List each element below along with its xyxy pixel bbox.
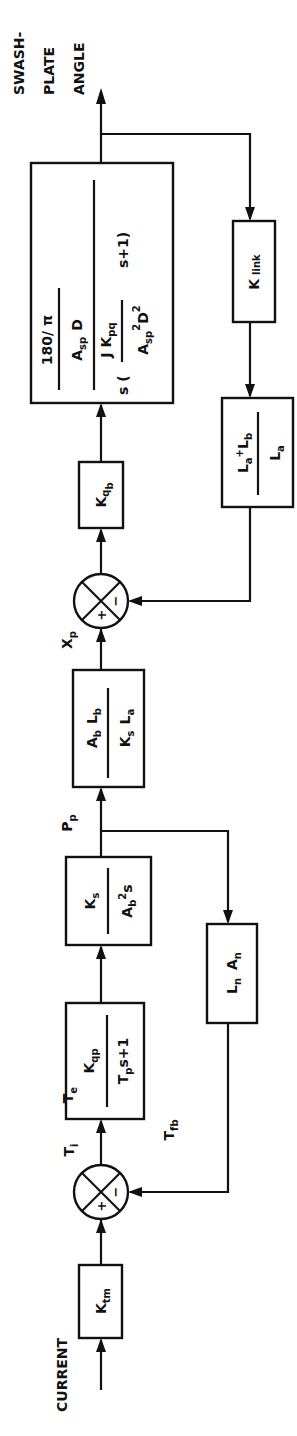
pressure-den: A: [119, 907, 135, 918]
kqb-sub: q: [100, 490, 111, 497]
valve-den: T: [115, 1074, 131, 1084]
block-lever: La+Lb La: [222, 398, 293, 507]
lever-lb: L: [235, 440, 251, 449]
valve-den-rest: s+1: [115, 1038, 131, 1068]
signal-xp: Xp: [59, 631, 78, 649]
plant-asp: A: [69, 350, 85, 361]
output-label-line3: ANGLE: [71, 42, 87, 95]
kqb-subsub: b: [104, 482, 115, 489]
lnan-a-sub: n: [232, 952, 243, 959]
plant-den-a: A: [135, 344, 151, 355]
signal-ti: Ti: [61, 1144, 80, 1157]
plant-asp-sub: sp: [77, 337, 88, 350]
lnan-a: A: [224, 959, 240, 970]
spool-den-l-sub: a: [125, 709, 136, 716]
block-valve: Kqp Tps+1: [66, 1003, 144, 1119]
plant-den-d: D: [135, 312, 151, 324]
summing-junction-2: + −: [74, 574, 128, 628]
spool-den-l: L: [117, 715, 133, 724]
block-spool: AbLb KsLa: [73, 670, 144, 787]
input-label: CURRENT: [54, 1338, 70, 1412]
signal-pp: Pp: [59, 814, 78, 831]
pressure-den-rest: s: [119, 884, 135, 892]
plant-den-prefix: s (: [115, 375, 131, 395]
block-kqb: Kqb: [79, 462, 123, 528]
block-klink: Klink: [233, 221, 275, 322]
block-plant: 180/ π AspD J Kpq s ( Asp2D2 s+1): [31, 163, 173, 403]
spool-den-k-sub: s: [125, 730, 136, 736]
plant-outer-top: 180/ π: [39, 315, 55, 365]
minus-sign: −: [108, 596, 123, 607]
output-label-line2: PLATE: [41, 47, 57, 95]
block-diagram: + − + − Ktm Kqp Tps+1 Ks Ab2s: [0, 0, 297, 1436]
lever-la-sub: a: [243, 457, 254, 464]
plus-sign: +: [94, 1201, 109, 1212]
valve-num-sub: qp: [89, 1048, 100, 1062]
valve-den-sub: p: [123, 1068, 134, 1075]
lnan-l: L: [224, 985, 240, 994]
plant-jk: J K: [98, 336, 114, 359]
block-lnan: LnAn: [207, 924, 257, 1023]
summing-junction-1: + −: [74, 1165, 128, 1219]
spool-num-l-sub: b: [92, 708, 103, 715]
lever-la: L: [235, 464, 251, 473]
plant-den-suffix: s+1): [115, 232, 131, 268]
klink-sub: link: [251, 254, 262, 275]
block-pressure: Ks Ab2s: [66, 857, 151, 945]
block-ktm-sub: tm: [101, 1288, 112, 1303]
signal-tfb: Tfb: [161, 1119, 180, 1140]
pressure-num-sub: s: [90, 893, 101, 899]
pressure-den-sub: b: [127, 900, 138, 907]
output-label-line1: SWASH-: [11, 31, 27, 95]
spool-num-a-sub: b: [92, 730, 103, 737]
lever-plus: +: [234, 449, 245, 457]
plant-d: D: [69, 319, 85, 331]
lever-den: L: [267, 452, 283, 461]
spool-num-l: L: [84, 715, 100, 724]
pressure-den-sup: 2: [117, 893, 128, 900]
plant-jk-sub: pq: [106, 322, 117, 336]
spool-num-a: A: [84, 737, 100, 748]
minus-sign: −: [108, 1187, 123, 1198]
klink-main: K: [246, 278, 262, 290]
plus-sign: +: [94, 610, 109, 621]
lever-den-sub: a: [275, 445, 286, 452]
plant-den-sup: 2: [131, 324, 142, 331]
lnan-l-sub: n: [232, 978, 243, 985]
lever-lb-sub: b: [243, 433, 254, 440]
plant-den-a-sub: sp: [143, 331, 154, 344]
block-ktm: Ktm: [79, 1265, 122, 1338]
plant-den-sup2: 2: [131, 305, 142, 312]
